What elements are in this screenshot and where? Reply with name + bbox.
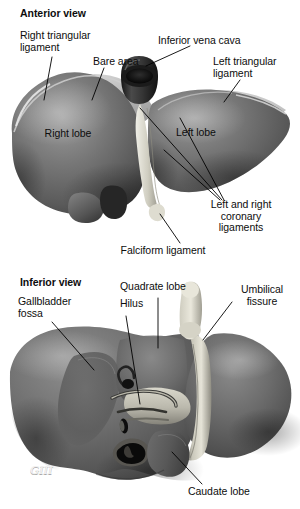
label-bare-area: Bare area [93, 56, 139, 68]
panel-heading-inferior: Inferior view [20, 277, 81, 289]
label-left-triangular-ligament: Left triangular ligament [213, 56, 276, 79]
label-quadrate-lobe: Quadrate lobe [120, 281, 186, 293]
caudate-lobe-surface [147, 430, 189, 477]
ligamentum-teres-anterior-tip [149, 204, 165, 221]
label-hilus: Hilus [120, 298, 143, 310]
panel-heading-anterior: Anterior view [20, 8, 86, 20]
liver-anatomy-figure: Anterior view Right triangular ligament … [0, 0, 300, 509]
label-right-lobe: Right lobe [40, 128, 96, 140]
label-right-triangular-ligament: Right triangular ligament [20, 30, 90, 53]
vena-cava-inferior-stub [100, 186, 127, 220]
leader-falciform-ligament [160, 214, 180, 243]
artist-signature: GIII [30, 462, 52, 478]
label-gallbladder-fossa: Gallbladder fossa [18, 296, 71, 319]
label-left-lobe: Left lobe [176, 127, 216, 139]
label-coronary-ligaments: Left and right coronary ligaments [188, 199, 294, 234]
label-caudate-lobe: Caudate lobe [188, 486, 250, 498]
label-umbilical-fissure: Umbilical fissure [226, 284, 298, 307]
label-inferior-vena-cava: Inferior vena cava [158, 35, 241, 47]
leader-inferior-vena-cava [146, 46, 190, 66]
label-falciform-ligament: Falciform ligament [103, 245, 223, 257]
